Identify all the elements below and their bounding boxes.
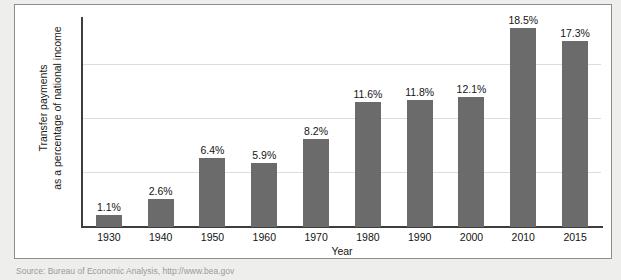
y-axis-title-line-2: as a percentage of national income	[51, 26, 64, 189]
bar-slot: 6.4%	[187, 19, 239, 227]
bar-value-label: 17.3%	[560, 27, 590, 39]
bar[interactable]: 8.2%	[303, 139, 329, 227]
x-axis-tick-labels: 1930194019501960197019801990200020102015	[83, 231, 601, 244]
bar-series: 1.1%2.6%6.4%5.9%8.2%11.6%11.8%12.1%18.5%…	[83, 19, 601, 227]
bar-value-label: 1.1%	[97, 201, 121, 213]
bar[interactable]: 11.8%	[407, 100, 433, 227]
x-tick-label: 1980	[342, 231, 394, 244]
x-tick-label: 1940	[135, 231, 187, 244]
bar-slot: 17.3%	[549, 19, 601, 227]
x-tick-label: 1930	[83, 231, 135, 244]
bar-value-label: 18.5%	[508, 14, 538, 26]
bar-slot: 11.6%	[342, 19, 394, 227]
bar[interactable]: 12.1%	[458, 97, 484, 227]
bar-slot: 11.8%	[394, 19, 446, 227]
bar-slot: 1.1%	[83, 19, 135, 227]
x-tick-label: 1990	[394, 231, 446, 244]
plot-area: 1.1%2.6%6.4%5.9%8.2%11.6%11.8%12.1%18.5%…	[83, 19, 601, 227]
bar-slot: 12.1%	[446, 19, 498, 227]
x-tick-label: 2015	[549, 231, 601, 244]
x-tick-label: 1950	[187, 231, 239, 244]
bar-slot: 2.6%	[135, 19, 187, 227]
bar-value-label: 2.6%	[149, 185, 173, 197]
bar[interactable]: 2.6%	[148, 199, 174, 227]
y-axis-title-line-1: Transfer payments	[37, 64, 50, 151]
x-tick-label: 1960	[238, 231, 290, 244]
bar-value-label: 6.4%	[201, 144, 225, 156]
bar-value-label: 11.6%	[353, 88, 382, 100]
x-tick-label: 1970	[290, 231, 342, 244]
bar[interactable]: 11.6%	[355, 102, 381, 227]
bar[interactable]: 1.1%	[96, 215, 122, 227]
bar-value-label: 12.1%	[457, 83, 487, 95]
bar[interactable]: 6.4%	[199, 158, 225, 227]
x-axis-title: Year	[83, 245, 601, 257]
bar[interactable]: 17.3%	[562, 41, 588, 227]
x-tick-label: 2000	[446, 231, 498, 244]
x-tick-label: 2010	[497, 231, 549, 244]
y-axis-title: Transfer payments as a percentage of nat…	[35, 13, 65, 203]
chart-figure: Transfer payments as a percentage of nat…	[14, 4, 612, 259]
bar-slot: 5.9%	[238, 19, 290, 227]
bar[interactable]: 5.9%	[251, 163, 277, 227]
bar-value-label: 8.2%	[304, 125, 328, 137]
bar-value-label: 11.8%	[405, 86, 434, 98]
bar-value-label: 5.9%	[252, 149, 276, 161]
bar-slot: 8.2%	[290, 19, 342, 227]
source-note: Source: Bureau of Economic Analysis, htt…	[16, 266, 234, 277]
bar[interactable]: 18.5%	[510, 28, 536, 227]
bar-slot: 18.5%	[497, 19, 549, 227]
